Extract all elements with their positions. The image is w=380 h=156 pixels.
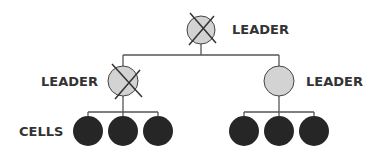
cell-node: [299, 116, 329, 146]
leadership-hierarchy-diagram: LEADER LEADER LEADER CELLS: [0, 0, 380, 156]
top-leader-label: LEADER: [232, 22, 289, 37]
cell-node: [73, 116, 103, 146]
cell-node: [264, 116, 294, 146]
right-cells-group: [229, 116, 329, 146]
top-leader-node: [187, 13, 216, 45]
cell-node: [143, 116, 173, 146]
cell-node: [229, 116, 259, 146]
left-cells-group: [73, 116, 173, 146]
cells-label: CELLS: [19, 124, 63, 139]
right-leader-node: [264, 66, 294, 96]
left-leader-label: LEADER: [41, 74, 98, 89]
right-leader-label: LEADER: [306, 74, 363, 89]
cell-node: [108, 116, 138, 146]
left-leader-node: [108, 64, 142, 99]
